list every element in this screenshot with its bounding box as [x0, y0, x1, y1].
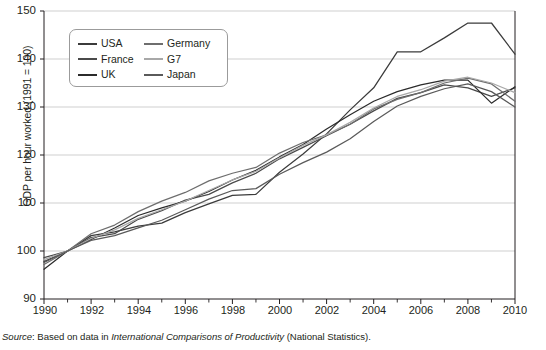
legend-label-germany: Germany	[167, 38, 210, 49]
legend-swatch-france	[78, 58, 97, 60]
legend-item-germany: Germany	[144, 38, 224, 49]
y-axis-tick-labels: 150 140 130 120 110 100 90	[0, 0, 36, 310]
legend-item-france: France	[78, 54, 144, 65]
y-tick-label: 120	[17, 149, 36, 160]
legend-label-uk: UK	[101, 69, 116, 80]
y-tick-label: 130	[17, 101, 36, 112]
legend-label-usa: USA	[101, 38, 123, 49]
source-caption: Source: Based on data in International C…	[2, 331, 371, 342]
x-tick-label: 2002	[304, 304, 350, 316]
x-tick-label: 1994	[116, 304, 162, 316]
source-publication: International Comparisons of Productivit…	[111, 331, 284, 342]
chart-legend: USA Germany France G7 UK Japan	[69, 29, 228, 87]
source-prefix: Source	[2, 331, 32, 342]
legend-label-japan: Japan	[167, 69, 196, 80]
x-tick-label: 2000	[257, 304, 303, 316]
y-tick-label: 110	[18, 197, 36, 208]
legend-swatch-germany	[144, 43, 163, 45]
legend-swatch-uk	[78, 74, 97, 76]
x-tick-label: 1992	[69, 304, 115, 316]
series-line-germany	[44, 78, 515, 264]
x-tick-label: 2004	[351, 304, 397, 316]
legend-item-usa: USA	[78, 38, 144, 49]
legend-swatch-g7	[144, 58, 163, 60]
legend-entries: USA Germany France G7 UK Japan	[78, 36, 224, 83]
x-tick-label: 1990	[22, 304, 68, 316]
x-tick-label: 1996	[163, 304, 209, 316]
source-tail: (National Statistics).	[284, 331, 371, 342]
legend-item-japan: Japan	[144, 69, 224, 80]
legend-item-g7: G7	[144, 54, 224, 65]
y-tick-label: 90	[23, 293, 36, 304]
x-tick-label: 2008	[445, 304, 491, 316]
series-line-japan	[44, 84, 515, 263]
y-tick-label: 100	[17, 245, 36, 256]
chart-figure: GDP per hour worked (1991 = 100) 150 140…	[0, 0, 546, 350]
x-tick-label: 2006	[398, 304, 444, 316]
legend-swatch-usa	[78, 43, 97, 45]
y-tick-label: 150	[17, 5, 36, 16]
legend-label-g7: G7	[167, 54, 181, 65]
y-tick-label: 140	[17, 53, 36, 64]
legend-label-france: France	[101, 54, 134, 65]
source-lead: Based on data in	[37, 331, 111, 342]
x-tick-label: 1998	[210, 304, 256, 316]
legend-swatch-japan	[144, 74, 163, 76]
legend-item-uk: UK	[78, 69, 144, 80]
x-tick-label: 2010	[492, 304, 538, 316]
